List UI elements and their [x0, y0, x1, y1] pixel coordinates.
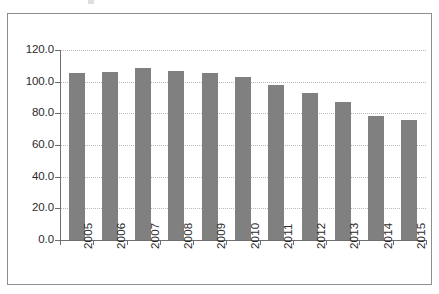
- x-axis-tick-label: 2010: [249, 223, 261, 249]
- bar[interactable]: [235, 77, 251, 240]
- y-axis-tick-label: 0.0: [8, 234, 54, 245]
- gridline: [60, 50, 426, 51]
- x-axis-tick-label: 2005: [82, 223, 94, 249]
- x-axis-tick-label: 2015: [415, 223, 427, 249]
- bar[interactable]: [69, 73, 85, 240]
- x-axis-tick-label: 2012: [315, 223, 327, 249]
- y-axis-tick-label: 40.0: [8, 171, 54, 182]
- x-axis-tick-label: 2009: [215, 223, 227, 249]
- bar[interactable]: [168, 71, 184, 240]
- x-axis-tick-mark: [60, 240, 61, 245]
- bar[interactable]: [202, 73, 218, 240]
- bar[interactable]: [335, 102, 351, 240]
- plot-area: 0.020.040.060.080.0100.0120.0 2005200620…: [8, 14, 431, 284]
- bar[interactable]: [102, 72, 118, 240]
- x-axis-tick-label: 2014: [382, 223, 394, 249]
- y-axis-line: [60, 50, 61, 240]
- x-axis-tick-label: 2007: [149, 223, 161, 249]
- bar[interactable]: [302, 93, 318, 240]
- scan-artifact: [88, 0, 94, 4]
- bar[interactable]: [268, 85, 284, 240]
- bar[interactable]: [368, 116, 384, 240]
- y-axis-tick-label: 120.0: [8, 44, 54, 55]
- x-axis-tick-label: 2008: [182, 223, 194, 249]
- bar[interactable]: [135, 68, 151, 240]
- x-axis-tick-label: 2013: [348, 223, 360, 249]
- x-axis-tick-label: 2011: [282, 223, 294, 249]
- y-axis-tick-label: 80.0: [8, 107, 54, 118]
- x-axis-tick-label: 2006: [115, 223, 127, 249]
- y-axis-tick-label: 20.0: [8, 202, 54, 213]
- chart-frame: 0.020.040.060.080.0100.0120.0 2005200620…: [7, 13, 432, 285]
- y-axis-tick-label: 100.0: [8, 76, 54, 87]
- y-axis-tick-label: 60.0: [8, 139, 54, 150]
